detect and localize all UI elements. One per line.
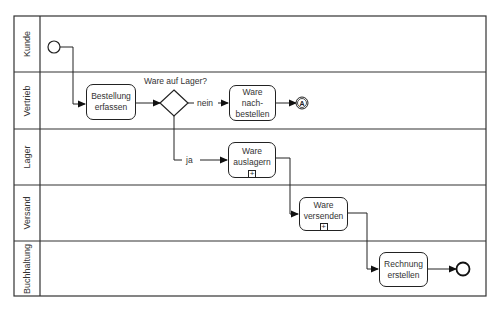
task-ware-nachbestellen[interactable]: Ware nach- bestellen [229, 85, 276, 121]
task-label: erfassen [95, 102, 128, 113]
task-label: nach- [242, 98, 263, 109]
task-ware-versenden[interactable]: Ware versenden + [299, 197, 348, 231]
task-label: Rechnung [384, 259, 423, 270]
task-label: erstellen [387, 270, 419, 281]
lane-label: Vertrieb [22, 85, 32, 116]
task-label: Ware [314, 200, 334, 211]
lane-label: Kunde [22, 31, 32, 57]
task-label: auslagern [233, 157, 270, 168]
subprocess-marker-icon: + [320, 223, 328, 231]
gateway-question-label: Ware auf Lager? [144, 76, 207, 86]
lane-label: Lager [22, 145, 32, 168]
svg-text:A: A [299, 100, 304, 107]
task-label: versenden [304, 211, 344, 222]
flow-label-nein: nein [197, 98, 213, 108]
task-label: bestellen [235, 109, 269, 120]
task-label: Bestellung [91, 91, 131, 102]
lane-lager: Lager [14, 129, 40, 185]
lane-vertrieb: Vertrieb [14, 72, 40, 129]
task-bestellung-erfassen[interactable]: Bestellung erfassen [86, 84, 136, 120]
task-label: Ware [242, 146, 262, 157]
start-event-icon [48, 41, 60, 53]
lane-kunde: Kunde [14, 16, 40, 72]
task-rechnung-erstellen[interactable]: Rechnung erstellen [379, 252, 428, 287]
lane-label: Versand [22, 196, 32, 229]
task-ware-auslagern[interactable]: Ware auslagern + [228, 142, 276, 178]
subprocess-marker-icon: + [248, 170, 256, 178]
task-label: Ware [243, 87, 263, 98]
lane-versand: Versand [14, 185, 40, 241]
lane-buchhaltung: Buchhaltung [14, 241, 40, 296]
lane-label: Buchhaltung [22, 243, 32, 293]
end-event-icon [457, 263, 470, 276]
exclusive-gateway-icon [160, 90, 188, 116]
flow-label-ja: ja [186, 155, 193, 165]
